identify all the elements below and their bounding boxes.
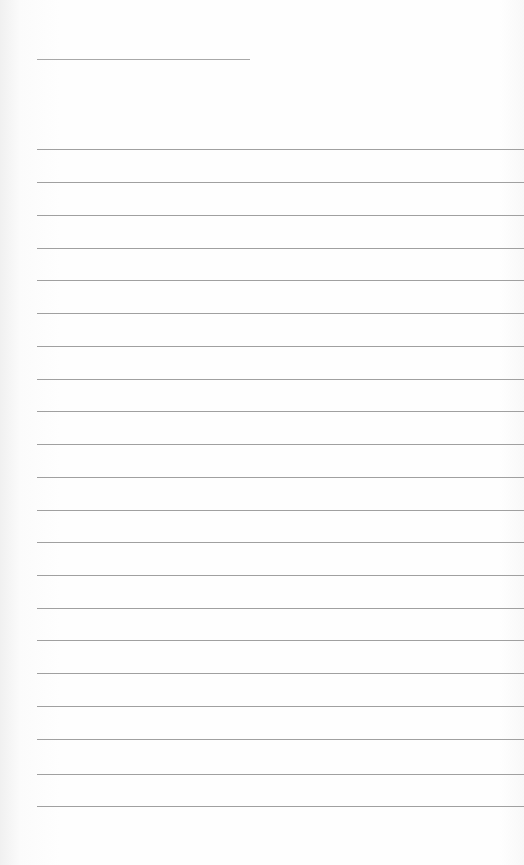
ruled-line [37,575,524,576]
ruled-line [37,280,524,281]
ruled-line [37,346,524,347]
ruled-line [37,542,524,543]
ruled-line [37,149,524,150]
ruled-line [37,411,524,412]
ruled-line [37,806,524,807]
ruled-line [37,379,524,380]
ruled-line [37,182,524,183]
ruled-line [37,739,524,740]
ruled-line [37,313,524,314]
ruled-line [37,673,524,674]
ruled-line [37,248,524,249]
ruled-line [37,774,524,775]
notepad-page [0,0,524,865]
ruled-lines [37,0,524,865]
ruled-line [37,510,524,511]
ruled-line [37,640,524,641]
ruled-line [37,477,524,478]
ruled-line [37,608,524,609]
ruled-line [37,215,524,216]
ruled-line [37,444,524,445]
ruled-line [37,706,524,707]
